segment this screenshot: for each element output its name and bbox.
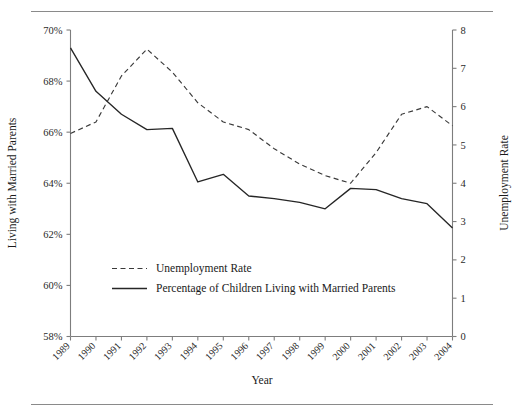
x-tick-label: 1998 <box>279 340 301 362</box>
x-tick-label: 1994 <box>177 340 199 362</box>
x-tick-label: 2003 <box>407 340 429 362</box>
x-tick-label: 2002 <box>381 340 403 362</box>
x-tick-label: 1991 <box>101 340 123 362</box>
x-tick-label: 2001 <box>356 340 378 362</box>
x-tick-label: 1993 <box>152 340 174 362</box>
x-tick-label: 2000 <box>330 340 352 362</box>
right-tick-label: 7 <box>461 63 466 74</box>
x-tick-label: 1990 <box>75 340 97 362</box>
right-tick-label: 4 <box>461 178 467 189</box>
left-tick-label: 58% <box>43 331 63 342</box>
chart-svg: 58%60%62%64%66%68%70% 012345678 19891990… <box>0 0 524 417</box>
left-tick-label: 64% <box>43 178 63 189</box>
chart-figure: 58%60%62%64%66%68%70% 012345678 19891990… <box>0 0 524 417</box>
left-tick-label: 66% <box>43 127 63 138</box>
x-axis-title: Year <box>251 374 272 386</box>
x-tick-label: 1992 <box>126 340 148 362</box>
left-tick-label: 70% <box>43 25 63 36</box>
right-tick-label: 0 <box>461 331 466 342</box>
legend-label-unemployment: Unemployment Rate <box>156 262 252 275</box>
x-tick-label: 2004 <box>432 340 454 362</box>
data-series-group <box>71 48 453 228</box>
x-tick-label: 1995 <box>203 340 225 362</box>
x-tick-label: 1996 <box>228 340 250 362</box>
right-tick-label: 3 <box>461 216 466 227</box>
right-tick-label: 1 <box>461 293 466 304</box>
left-tick-label: 62% <box>43 229 63 240</box>
left-tick-label: 60% <box>43 280 63 291</box>
x-tick-label: 1997 <box>254 340 276 362</box>
x-tick-label: 1999 <box>305 340 327 362</box>
series-unemployment-rate-line <box>71 49 453 183</box>
legend-label-married-parents: Percentage of Children Living with Marri… <box>156 282 396 295</box>
right-axis-ticks: 012345678 <box>453 25 467 343</box>
right-tick-label: 6 <box>461 101 466 112</box>
left-axis: 58%60%62%64%66%68%70% <box>43 25 70 343</box>
y-axis-title-left: Living with Married Parents <box>6 117 19 248</box>
x-tick-label: 1989 <box>50 340 72 362</box>
left-tick-label: 68% <box>43 76 63 87</box>
chart-legend: Unemployment Rate Percentage of Children… <box>112 262 396 295</box>
right-axis: 012345678 <box>453 25 467 343</box>
y-axis-title-right: Unemployment Rate <box>498 135 511 231</box>
x-axis-ticks: 1989199019911992199319941995199619971998… <box>50 337 454 363</box>
right-tick-label: 5 <box>461 140 466 151</box>
right-tick-label: 2 <box>461 254 466 265</box>
right-tick-label: 8 <box>461 25 466 36</box>
left-axis-ticks: 58%60%62%64%66%68%70% <box>43 25 70 343</box>
bottom-axis: 1989199019911992199319941995199619971998… <box>50 337 454 363</box>
series-married-parents-line <box>71 48 453 228</box>
